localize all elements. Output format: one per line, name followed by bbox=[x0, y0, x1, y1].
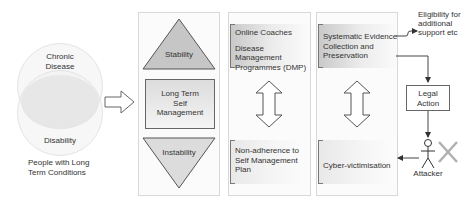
attacker-label: Attacker bbox=[408, 169, 448, 179]
eligibility-label: Eligibility for additional support etc bbox=[418, 10, 474, 37]
cross-icon bbox=[437, 140, 459, 164]
legal-action-label: Legal Action bbox=[406, 89, 450, 108]
connectors bbox=[0, 0, 474, 207]
attacker-icon bbox=[418, 138, 438, 170]
